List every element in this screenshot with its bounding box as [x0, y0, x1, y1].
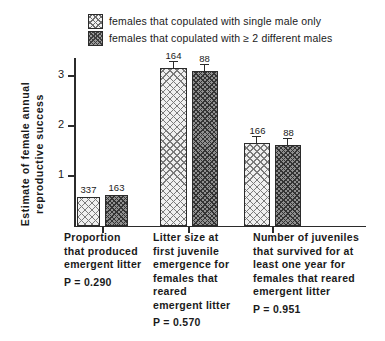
y-axis-title-line1: Estimate of female annual	[18, 54, 32, 254]
bar-group3-series2	[275, 145, 301, 226]
bar-count-group1-series2: 163	[100, 182, 133, 193]
group-3-caption: Number of juveniles that survived for at…	[253, 231, 379, 299]
error-cap-group3-series2	[283, 138, 292, 139]
y-tick-label-3: 3	[42, 68, 64, 80]
bar-group1-series2	[105, 195, 128, 226]
error-cap-group2-series2	[200, 64, 209, 65]
group-3-caption-block: Number of juveniles that survived for at…	[253, 231, 379, 316]
bar-count-group2-series1: 164	[157, 50, 190, 61]
bar-count-group3-series1: 166	[241, 125, 274, 136]
group-1-caption-block: Proportion that produced emergent litter…	[64, 231, 150, 289]
legend-item-single-male: females that copulated with single male …	[88, 13, 368, 30]
legend-item-multiple-males: females that copulated with ≥ 2 differen…	[88, 30, 368, 47]
bar-group3-series1	[244, 143, 270, 226]
group-2-caption-block: Litter size at first juvenile emergence …	[153, 231, 251, 330]
y-tick-mark-3	[68, 75, 75, 77]
legend-label-single-male: females that copulated with single male …	[109, 15, 321, 28]
y-tick-label-1: 1	[42, 168, 64, 180]
group-1-caption: Proportion that produced emergent litter	[64, 231, 150, 272]
y-axis-title-line2: reproductive success	[32, 54, 46, 254]
bar-group1-series1	[77, 197, 100, 226]
light-crosshatch-swatch-icon	[88, 14, 103, 29]
y-axis-line	[74, 58, 76, 227]
group-2-caption: Litter size at first juvenile emergence …	[153, 231, 251, 312]
y-tick-label-2: 2	[42, 118, 64, 130]
bar-group2-series2	[192, 71, 218, 226]
error-cap-group3-series1	[252, 136, 261, 137]
dark-crosshatch-swatch-icon	[88, 31, 103, 46]
y-tick-mark-1	[68, 175, 75, 177]
bar-chart-figure: females that copulated with single male …	[0, 0, 385, 341]
group-2-p-value: P = 0.570	[153, 316, 251, 330]
chart-legend: females that copulated with single male …	[88, 13, 368, 47]
bar-group2-series1	[160, 68, 187, 226]
y-axis-title: Estimate of female annual reproductive s…	[18, 54, 46, 254]
bar-count-group2-series2: 88	[188, 53, 221, 64]
y-tick-mark-2	[68, 125, 75, 127]
group-1-p-value: P = 0.290	[64, 276, 150, 290]
legend-label-multiple-males: females that copulated with ≥ 2 differen…	[109, 32, 332, 45]
bar-count-group3-series2: 88	[272, 127, 305, 138]
error-cap-group2-series1	[169, 61, 178, 62]
group-3-p-value: P = 0.951	[253, 303, 379, 317]
